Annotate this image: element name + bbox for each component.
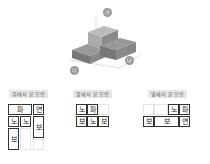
- view-marker-front: 다: [70, 66, 79, 75]
- cell-no: 노: [87, 116, 98, 127]
- cell-bo: 보: [33, 116, 44, 138]
- cell-bo: 보: [76, 116, 87, 127]
- cell-pa: 파: [8, 104, 32, 115]
- cell-bo: 보: [98, 116, 109, 127]
- cell-pa: 파: [87, 104, 98, 115]
- cell-no: 노: [168, 104, 179, 115]
- label-front-view: 앞에서 본 모양: [73, 90, 112, 98]
- cell-no: 노: [20, 116, 31, 127]
- grid-cell: [33, 139, 44, 150]
- cell-bo: 보: [8, 128, 19, 150]
- label-top-view: 위에서 본 모양: [9, 90, 48, 98]
- cell-yeon: 연: [33, 104, 44, 115]
- cell-yeon: 연: [179, 116, 190, 127]
- cell-pa: 파: [179, 104, 190, 115]
- grid-cell: [98, 104, 109, 115]
- cell-no: 노: [8, 116, 19, 127]
- cell-bo: 보: [143, 116, 154, 127]
- label-side-view: 옆에서 본 모양: [148, 90, 187, 98]
- cell-no: 노: [76, 104, 87, 115]
- grid-cell: [154, 104, 168, 115]
- grid-cell: [20, 128, 31, 150]
- view-marker-top: 가: [103, 8, 112, 17]
- cell-bo: 보: [154, 116, 179, 127]
- grid-cell: [143, 104, 154, 115]
- view-marker-side: 나: [125, 56, 134, 65]
